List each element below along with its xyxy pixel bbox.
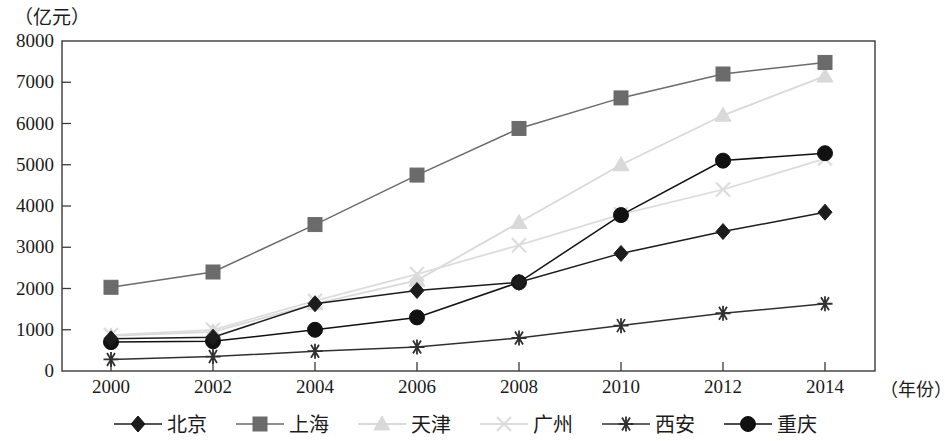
x-axis-title: （年份） (880, 375, 945, 401)
diamond-marker (818, 204, 832, 220)
square-marker (512, 121, 526, 135)
circle-marker (740, 416, 755, 431)
circle-marker (308, 322, 323, 337)
circle-marker (410, 310, 425, 325)
y-axis-tick-label: 8000 (0, 31, 54, 50)
legend-item-上海[interactable]: 上海 (234, 409, 329, 439)
diamond-marker (716, 224, 730, 240)
asterisk-marker (512, 331, 527, 346)
asterisk-marker (308, 344, 323, 359)
triangle-marker (511, 215, 527, 229)
triangle-marker (613, 157, 629, 171)
square-marker (206, 265, 220, 279)
asterisk-marker (206, 349, 221, 364)
square-marker (234, 413, 286, 435)
x-axis-tick-label: 2012 (688, 377, 758, 396)
asterisk-marker (618, 416, 633, 431)
x-axis-tick-label: 2006 (382, 377, 452, 396)
asterisk-marker (716, 306, 731, 321)
x-axis-tick-label: 2010 (586, 377, 656, 396)
legend-label: 广州 (533, 409, 573, 438)
triangle-marker (715, 107, 731, 121)
square-marker (716, 67, 730, 81)
x-axis-tick-label: 2002 (178, 377, 248, 396)
y-axis-tick-label: 0 (0, 361, 54, 380)
asterisk-marker (818, 296, 833, 311)
legend-label: 上海 (289, 409, 329, 438)
legend-label: 重庆 (777, 409, 817, 438)
chart-legend: 北京上海天津广州西安重庆 (0, 406, 928, 441)
y-axis-tick-label: 1000 (0, 320, 54, 339)
plot-frame (62, 41, 875, 371)
legend-item-西安[interactable]: 西安 (600, 409, 695, 439)
square-marker (410, 168, 424, 182)
y-axis-tick-label: 3000 (0, 237, 54, 256)
asterisk-marker (104, 352, 119, 367)
legend-item-重庆[interactable]: 重庆 (722, 409, 817, 439)
asterisk-marker (614, 318, 629, 333)
asterisk-marker (600, 413, 652, 435)
legend-item-广州[interactable]: 广州 (478, 409, 573, 439)
y-axis-unit-label: （亿元） (14, 2, 90, 29)
diamond-marker (131, 416, 145, 432)
x-axis-tick-label: 2008 (484, 377, 554, 396)
series-line (111, 304, 825, 360)
series-上海 (104, 55, 832, 294)
legend-label: 天津 (411, 409, 451, 438)
square-marker (614, 91, 628, 105)
diamond-marker (112, 413, 164, 435)
series-line (111, 76, 825, 336)
series-line (111, 62, 825, 287)
cross-marker (478, 413, 530, 435)
x-axis-tick-label: 2014 (790, 377, 860, 396)
circle-marker (818, 146, 833, 161)
circle-marker (614, 208, 629, 223)
cross-marker (512, 238, 526, 252)
y-axis-tick-label: 4000 (0, 196, 54, 215)
y-axis-tick-label: 2000 (0, 279, 54, 298)
circle-marker (716, 153, 731, 168)
x-axis-tick-label: 2000 (76, 377, 146, 396)
y-axis-tick-label: 5000 (0, 155, 54, 174)
square-marker (818, 55, 832, 69)
legend-item-北京[interactable]: 北京 (112, 409, 207, 439)
triangle-marker (356, 413, 408, 435)
circle-marker (722, 413, 774, 435)
asterisk-marker (410, 340, 425, 355)
square-marker (253, 417, 267, 431)
square-marker (104, 280, 118, 294)
x-axis-tick-label: 2004 (280, 377, 350, 396)
legend-label: 西安 (655, 409, 695, 438)
y-axis-tick-label: 6000 (0, 114, 54, 133)
triangle-marker (817, 68, 833, 82)
y-axis-tick-label: 7000 (0, 72, 54, 91)
legend-item-天津[interactable]: 天津 (356, 409, 451, 439)
legend-label: 北京 (167, 409, 207, 438)
triangle-marker (374, 416, 390, 430)
diamond-marker (614, 245, 628, 261)
square-marker (308, 218, 322, 232)
series-天津 (103, 68, 833, 342)
cross-marker (716, 183, 730, 197)
